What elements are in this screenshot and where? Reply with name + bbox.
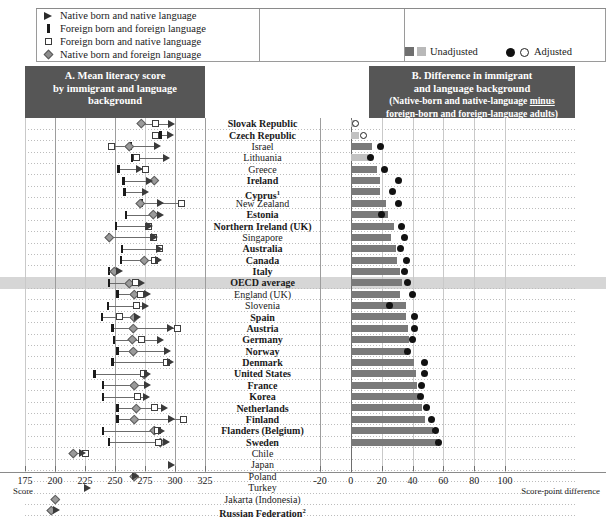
bar-unadjusted	[351, 291, 400, 298]
axis-b-tick-80	[474, 466, 475, 471]
dot-adjusted	[435, 439, 442, 446]
dot-adjusted	[421, 370, 428, 377]
bar-unadjusted	[351, 223, 394, 230]
dot-adjusted	[401, 268, 408, 275]
panel-b-title-line2: and language background	[369, 83, 575, 96]
dot-adjusted	[409, 336, 416, 343]
panel-b-title: B. Difference in immigrant and language …	[369, 66, 575, 118]
axis-a-tick-300	[175, 466, 176, 471]
axis-a-caption: Score	[13, 486, 33, 496]
bar-unadjusted	[351, 382, 417, 389]
axis-a-ticklabel: 325	[185, 475, 225, 486]
panel-a-title: A. Mean literacy score by immigrant and …	[25, 66, 205, 118]
legend-panel-b: Unadjusted Adjusted	[405, 44, 605, 60]
open-square-icon	[42, 35, 55, 48]
axis-a-tick-250	[115, 466, 116, 471]
dot-adjusted	[421, 359, 428, 366]
axis-a-tick-175	[25, 466, 26, 471]
bar-unadjusted	[351, 359, 414, 366]
gray-diamond-icon	[42, 48, 55, 61]
bar-unadjusted	[351, 177, 380, 184]
legend-label: Foreign born and foreign language	[60, 22, 206, 35]
panel-b-title-line3: (Native-born and native-language minus	[369, 95, 575, 108]
axis-b-tick-60	[443, 466, 444, 471]
legend-label: Native born and foreign language	[60, 48, 201, 61]
dot-adjusted	[432, 427, 439, 434]
bar-unadjusted	[351, 132, 359, 139]
dot-adjusted	[418, 382, 425, 389]
axis-b-tick-0	[351, 466, 352, 471]
axis-a-tick-200	[55, 466, 56, 471]
axis-b-tick-20	[382, 466, 383, 471]
legend-item-foreign-native: Foreign born and native language	[36, 35, 260, 48]
dot-adjusted	[401, 234, 408, 241]
dot-adjusted	[409, 291, 416, 298]
legend-item-native-native: Native born and native language	[36, 9, 260, 22]
legend-label: Native born and native language	[60, 9, 196, 22]
filled-circle-icon	[506, 48, 515, 57]
axes: 175200225250275300325Score-2002040608010…	[0, 470, 606, 504]
vertical-bar-icon	[42, 22, 55, 35]
legend-panel-a: Native born and native language Foreign …	[36, 9, 260, 61]
bar-unadjusted	[351, 245, 396, 252]
legend-label: Foreign born and native language	[60, 35, 201, 48]
bar-unadjusted	[351, 439, 437, 446]
dot-adjusted	[404, 348, 411, 355]
panel-b-title-line1: B. Difference in immigrant	[369, 70, 575, 83]
open-circle-icon	[520, 48, 529, 57]
axis-a-tick-225	[85, 466, 86, 471]
dot-adjusted	[389, 188, 396, 195]
bar-unadjusted	[351, 416, 425, 423]
bar-unadjusted	[351, 154, 368, 161]
bar-unadjusted	[351, 313, 407, 320]
bar-unadjusted	[351, 257, 397, 264]
dot-adjusted	[352, 120, 359, 127]
panel-b-plot	[0, 118, 606, 472]
panel-a-title-line2: by immigrant and language background	[25, 83, 205, 108]
bar-unadjusted	[351, 336, 410, 343]
bar-unadjusted	[351, 404, 422, 411]
axis-a-tick-275	[145, 466, 146, 471]
legend-item-native-foreign: Native born and foreign language	[36, 48, 260, 61]
panel-a-title-line1: A. Mean literacy score	[25, 70, 205, 83]
bar-unadjusted	[351, 166, 377, 173]
dot-adjusted	[367, 154, 374, 161]
country-label: Russian Federation2	[205, 505, 320, 519]
bar-unadjusted	[351, 200, 386, 207]
bar-unadjusted	[351, 279, 402, 286]
dot-adjusted	[417, 393, 424, 400]
bar-unadjusted	[351, 143, 373, 150]
dark-square-icon	[405, 47, 414, 56]
dot-adjusted	[404, 279, 411, 286]
dot-adjusted	[395, 200, 402, 207]
dot-adjusted	[428, 416, 435, 423]
legend-item-foreign-foreign: Foreign born and foreign language	[36, 22, 260, 35]
dot-adjusted	[397, 245, 404, 252]
axis-a-line	[0, 472, 606, 473]
dot-adjusted	[377, 143, 384, 150]
dot-adjusted	[386, 302, 393, 309]
filled-triangle-right-icon	[42, 9, 55, 22]
bar-unadjusted	[351, 348, 407, 355]
dot-adjusted	[411, 313, 418, 320]
axis-a-tick-325	[205, 466, 206, 471]
dot-adjusted	[403, 257, 410, 264]
dot-adjusted	[381, 166, 388, 173]
marker-native-born-native-language	[53, 506, 60, 514]
bar-unadjusted	[351, 393, 419, 400]
dot-adjusted	[423, 404, 430, 411]
bar-unadjusted	[351, 370, 416, 377]
bar-unadjusted	[351, 325, 408, 332]
legend-frame-bottom-border	[36, 61, 606, 62]
dot-adjusted	[360, 132, 367, 139]
dot-adjusted	[411, 325, 418, 332]
axis-b-ticklabel: 100	[485, 475, 525, 486]
dot-adjusted	[395, 177, 402, 184]
axis-b-tick-100	[505, 466, 506, 471]
legend-label-adjusted: Adjusted	[534, 44, 572, 59]
bar-unadjusted	[351, 188, 380, 195]
legend-label-unadjusted: Unadjusted	[430, 44, 478, 59]
bar-unadjusted	[351, 268, 400, 275]
axis-b-caption: Score-point difference	[521, 486, 600, 496]
axis-b-tick-40	[413, 466, 414, 471]
